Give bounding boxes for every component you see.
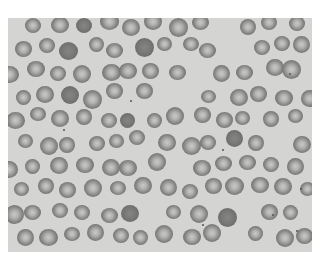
red-blood-cell — [83, 90, 102, 109]
red-blood-cell — [248, 226, 263, 241]
red-blood-cell — [276, 229, 294, 247]
red-blood-cell — [39, 38, 55, 53]
red-blood-cell — [274, 36, 290, 51]
debris-speck — [63, 129, 65, 131]
red-blood-cell — [182, 184, 198, 199]
red-blood-cell — [102, 64, 121, 81]
debris-speck — [202, 224, 204, 226]
red-blood-cell — [213, 65, 230, 82]
red-blood-cell — [263, 157, 279, 172]
red-blood-cell — [215, 156, 232, 171]
red-blood-cell — [74, 205, 90, 220]
red-blood-cell — [261, 204, 278, 220]
red-blood-cell — [216, 112, 233, 128]
red-blood-cell — [261, 18, 277, 30]
red-blood-cell — [274, 178, 292, 195]
red-blood-cell — [84, 179, 102, 197]
red-blood-cell — [15, 41, 32, 57]
red-blood-cell — [193, 160, 211, 176]
red-blood-cell — [52, 203, 68, 218]
red-blood-cell — [8, 161, 18, 178]
red-blood-cell — [218, 208, 237, 227]
red-blood-cell — [142, 63, 159, 79]
red-blood-cell — [296, 228, 312, 244]
red-blood-cell — [194, 107, 211, 123]
red-blood-cell — [136, 83, 153, 99]
red-blood-cell — [51, 18, 69, 33]
red-blood-cell — [109, 134, 124, 148]
red-blood-cell — [76, 18, 92, 33]
red-blood-cell — [121, 205, 139, 222]
red-blood-cell — [183, 229, 201, 245]
red-blood-cell — [240, 19, 256, 35]
red-blood-cell — [110, 181, 126, 195]
red-blood-cell — [113, 228, 129, 243]
red-blood-cell — [40, 137, 58, 155]
red-blood-cell — [119, 160, 137, 176]
red-blood-cell — [30, 107, 46, 121]
debris-speck — [222, 149, 224, 151]
red-blood-cell — [283, 205, 298, 220]
red-blood-cell — [51, 110, 69, 127]
red-blood-cell — [199, 43, 216, 58]
red-blood-cell — [254, 40, 270, 55]
red-blood-cell — [120, 113, 135, 128]
red-blood-cell — [293, 136, 311, 153]
red-blood-cell — [293, 36, 310, 53]
red-blood-cell — [119, 63, 137, 79]
red-blood-cell — [166, 107, 184, 125]
red-blood-cell — [87, 224, 104, 241]
red-blood-cell — [169, 18, 188, 37]
red-blood-cell — [225, 177, 244, 195]
red-blood-cell — [8, 66, 19, 83]
red-blood-cell — [226, 130, 243, 147]
red-blood-cell — [39, 229, 58, 246]
red-blood-cell — [263, 111, 279, 127]
red-blood-cell — [101, 208, 118, 223]
red-blood-cell — [203, 224, 221, 242]
red-blood-cell — [275, 90, 293, 106]
red-blood-cell — [201, 90, 216, 103]
debris-speck — [300, 188, 302, 190]
red-blood-cell — [16, 90, 31, 105]
red-blood-cell — [239, 155, 256, 170]
red-blood-cell — [73, 65, 91, 83]
red-blood-cell — [289, 18, 305, 31]
red-blood-cell — [102, 159, 120, 176]
red-blood-cell — [230, 89, 248, 106]
red-blood-cell — [24, 205, 41, 220]
red-blood-cell — [183, 37, 199, 51]
red-blood-cell — [36, 86, 54, 103]
red-blood-cell — [25, 159, 40, 174]
red-blood-cell — [76, 109, 92, 125]
red-blood-cell — [182, 137, 201, 155]
red-blood-cell — [250, 86, 267, 102]
red-blood-cell — [106, 83, 123, 99]
red-blood-cell — [301, 90, 312, 107]
red-blood-cell — [166, 205, 181, 219]
red-blood-cell — [27, 61, 45, 77]
red-blood-cell — [100, 18, 119, 30]
red-blood-cell — [157, 37, 172, 51]
red-blood-cell — [248, 135, 264, 151]
red-blood-cell — [160, 179, 177, 196]
red-blood-cell — [169, 65, 186, 80]
red-blood-cell — [18, 134, 33, 148]
red-blood-cell — [282, 60, 301, 79]
red-blood-cell — [17, 229, 34, 246]
red-blood-cell — [155, 225, 173, 243]
red-blood-cell — [122, 19, 140, 36]
red-blood-cell — [134, 177, 152, 194]
debris-speck — [289, 73, 291, 75]
debris-speck — [130, 100, 132, 102]
blood-smear-micrograph — [8, 18, 312, 252]
red-blood-cell — [8, 112, 25, 129]
red-blood-cell — [192, 18, 209, 30]
red-blood-cell — [38, 178, 54, 194]
red-blood-cell — [148, 153, 166, 171]
red-blood-cell — [190, 205, 208, 223]
debris-speck — [272, 214, 274, 216]
red-blood-cell — [25, 18, 41, 33]
red-blood-cell — [106, 43, 123, 58]
red-blood-cell — [147, 113, 162, 128]
